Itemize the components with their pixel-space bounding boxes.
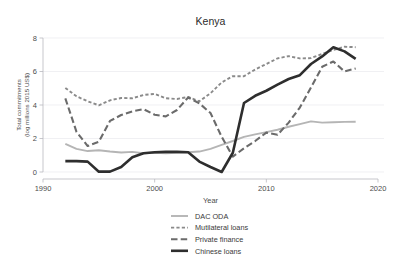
x-tick-label-1: 2000 — [146, 184, 163, 193]
y-tick-label-4: 8 — [33, 34, 37, 43]
y-tick-label-0: 0 — [33, 168, 37, 177]
series-line-private-finance — [65, 61, 355, 156]
x-axis-title: Year — [203, 196, 219, 205]
legend-label-0: DAC ODA — [195, 212, 228, 221]
y-tick-label-1: 2 — [33, 134, 37, 143]
legend-label-3: Chinese loans — [195, 247, 242, 256]
series-line-mutilateral-loans — [65, 47, 355, 106]
legend-label-1: Mutilateral loans — [195, 223, 248, 232]
series-line-dac-oda — [65, 121, 355, 153]
x-tick-label-0: 1990 — [35, 184, 52, 193]
chart-figure: 024681990200020102020YearTotal commitmen… — [0, 0, 401, 268]
y-tick-label-3: 6 — [33, 67, 37, 76]
legend-label-2: Private finance — [195, 235, 243, 244]
chart-canvas: 024681990200020102020YearTotal commitmen… — [0, 0, 401, 268]
y-axis-title-line2: (log millions 2015 US$) — [23, 73, 30, 137]
chart-title: Kenya — [196, 15, 226, 27]
x-tick-label-2: 2010 — [258, 184, 275, 193]
y-axis-title-line1: Total commitments — [15, 79, 22, 131]
y-tick-label-2: 4 — [33, 101, 37, 110]
x-tick-label-3: 2020 — [370, 184, 387, 193]
series-line-chinese-loans — [65, 47, 355, 172]
